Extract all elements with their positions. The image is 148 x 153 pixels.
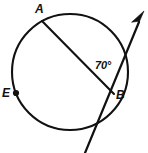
geometry-figure: A B E 70° — [0, 0, 148, 153]
tangent-ray-line — [85, 22, 139, 153]
chord-ab-line — [42, 21, 114, 94]
geometry-canvas — [0, 0, 148, 153]
point-label-e: E — [2, 87, 10, 99]
angle-label-70-degrees: 70° — [95, 60, 111, 71]
tangent-arrowhead-icon — [132, 11, 144, 29]
point-e-dot — [13, 90, 19, 96]
circle-shape — [12, 14, 128, 130]
point-label-b: B — [116, 89, 125, 101]
point-label-a: A — [35, 3, 44, 15]
